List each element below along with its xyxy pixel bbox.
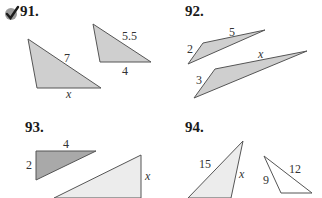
problem-92: 92. 2 5 3 x [161, 0, 322, 99]
label-x: x [258, 47, 263, 62]
label-5-5: 5.5 [122, 29, 137, 44]
problem-94: 94. 15 x 9 12 [161, 99, 322, 198]
label-12: 12 [289, 162, 301, 177]
triangles-91 [0, 0, 161, 99]
label-15: 15 [199, 157, 211, 172]
problem-91: 91. 7 x 5.5 4 [0, 0, 161, 99]
label-x: x [239, 167, 244, 182]
label-9: 9 [263, 173, 269, 188]
label-2: 2 [26, 158, 32, 173]
triangles-92 [161, 0, 322, 99]
label-x: x [145, 169, 150, 184]
label-3: 3 [196, 73, 202, 88]
label-4: 4 [63, 137, 69, 152]
label-4: 4 [122, 64, 128, 79]
label-7: 7 [64, 51, 70, 66]
triangles-94 [161, 99, 322, 198]
label-5: 5 [229, 25, 235, 40]
problem-93: 93. 4 2 x [0, 99, 161, 198]
label-2: 2 [187, 42, 193, 57]
triangles-93 [0, 99, 161, 198]
